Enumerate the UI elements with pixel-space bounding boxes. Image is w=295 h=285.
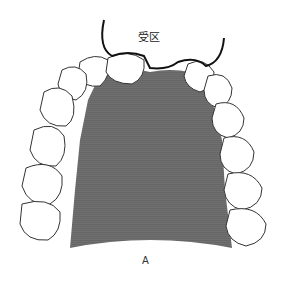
- recipient-site-label: 受区: [138, 28, 160, 44]
- figure-label: A: [142, 255, 149, 266]
- maxillary-arch-diagram: 受区 A: [0, 0, 295, 285]
- front-teeth: [106, 53, 144, 84]
